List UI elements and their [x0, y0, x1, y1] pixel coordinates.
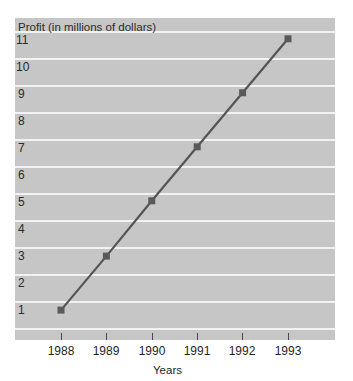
y-tick-label-3: 3 — [18, 250, 48, 262]
y-tick-label-8: 8 — [18, 115, 48, 127]
x-tick-label-1991: 1991 — [184, 345, 211, 358]
x-tick-label-1988: 1988 — [48, 345, 75, 358]
y-tick-label-11: 11 — [16, 34, 46, 46]
gridline-baseline — [15, 328, 335, 330]
y-tick-label-6: 6 — [18, 169, 48, 181]
x-tick-label-1992: 1992 — [229, 345, 256, 358]
y-tick-label-10: 10 — [16, 61, 46, 73]
x-tick-mark-1991 — [197, 333, 198, 340]
x-axis-title-text: Years — [153, 364, 182, 377]
gridline-7 — [15, 139, 335, 141]
x-tick-label-1990: 1990 — [139, 345, 166, 358]
x-tick-mark-1992 — [242, 333, 243, 340]
gridline-3 — [15, 247, 335, 249]
x-tick-label-1989: 1989 — [93, 345, 120, 358]
gridline-9 — [15, 85, 335, 87]
gridline-2 — [15, 274, 335, 276]
x-axis-title: Years — [0, 364, 353, 377]
y-tick-label-5: 5 — [18, 196, 48, 208]
y-tick-label-7: 7 — [18, 142, 48, 154]
gridline-10 — [15, 58, 335, 60]
gridline-4 — [15, 220, 335, 222]
y-tick-label-1: 1 — [18, 304, 48, 316]
x-tick-mark-1989 — [106, 333, 107, 340]
x-tick-mark-1988 — [61, 333, 62, 340]
gridline-8 — [15, 112, 335, 114]
y-tick-label-9: 9 — [18, 88, 48, 100]
chart-title: Profit (in millions of dollars) — [18, 21, 156, 34]
profit-line-chart: Profit (in millions of dollars) 11 10 9 … — [0, 0, 353, 381]
x-tick-mark-1993 — [288, 333, 289, 340]
gridline-6 — [15, 166, 335, 168]
y-tick-label-2: 2 — [18, 277, 48, 289]
y-tick-label-4: 4 — [18, 223, 48, 235]
plot-area — [15, 18, 335, 340]
x-tick-label-1993: 1993 — [275, 345, 302, 358]
gridline-1 — [15, 301, 335, 303]
gridline-5 — [15, 193, 335, 195]
x-tick-mark-1990 — [152, 333, 153, 340]
